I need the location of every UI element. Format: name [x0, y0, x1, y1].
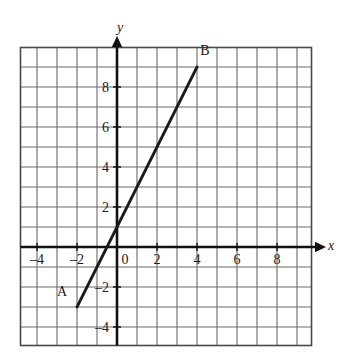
point-label-b: B	[200, 43, 209, 58]
x-tick-label: 2	[154, 252, 161, 267]
y-tick-label: 6	[102, 120, 109, 135]
coordinate-plane-figure: –4–202468–4–22468 AB x y	[0, 0, 348, 364]
x-axis-label: x	[327, 238, 335, 253]
y-tick-label: –4	[94, 320, 109, 335]
x-tick-label: 0	[122, 252, 129, 267]
x-tick-label: 6	[234, 252, 241, 267]
x-tick-label: –4	[29, 252, 44, 267]
x-tick-label: 4	[194, 252, 201, 267]
y-tick-label: 4	[102, 160, 109, 175]
y-tick-label: 8	[102, 80, 109, 95]
figure-background	[0, 0, 348, 364]
x-tick-label: 8	[274, 252, 281, 267]
x-tick-label: –2	[69, 252, 84, 267]
y-axis-label: y	[115, 20, 124, 35]
y-tick-label: 2	[102, 200, 109, 215]
y-tick-label: –2	[94, 280, 109, 295]
point-label-a: A	[57, 284, 68, 299]
